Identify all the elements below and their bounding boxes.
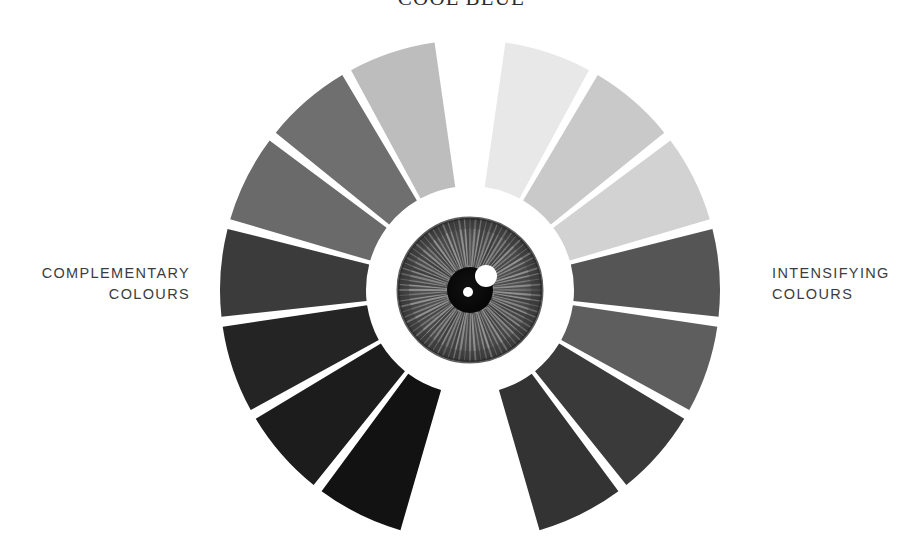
eye-highlight-small	[463, 287, 473, 297]
eye-icon	[397, 217, 544, 364]
colour-wheel-figure: COOL BLUE COMPLEMENTARY COLOURS INTENSIF…	[0, 0, 923, 554]
eye-highlight-large	[475, 265, 497, 287]
colour-wheel-svg	[0, 0, 923, 554]
